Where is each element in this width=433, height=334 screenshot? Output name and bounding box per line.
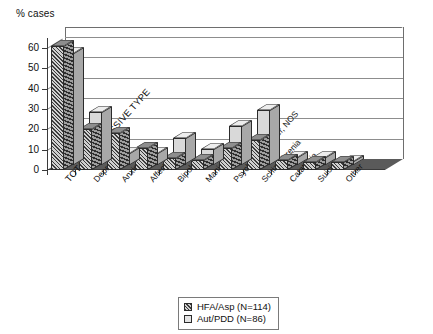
chart-figure: % cases 0102030405060 TOTAL DEPRESSIVE T… — [0, 0, 433, 334]
bar-face — [331, 162, 344, 170]
bar-side — [74, 47, 84, 165]
bar-face — [191, 160, 204, 170]
bar-side — [102, 106, 112, 165]
bar — [191, 160, 204, 170]
bar-face — [303, 162, 316, 170]
bar — [51, 46, 64, 170]
bar-side — [120, 127, 130, 170]
bar — [275, 160, 288, 170]
legend-item-aut-pdd: Aut/PDD (N=86) — [184, 313, 271, 325]
legend-swatch-icon-aut-pdd — [184, 315, 192, 323]
chart-legend: HFA/Asp (N=114) Aut/PDD (N=86) — [178, 297, 279, 330]
bar — [331, 162, 344, 170]
legend-item-hfa-asp: HFA/Asp (N=114) — [184, 301, 271, 313]
bar-side — [242, 120, 252, 165]
bar-face — [51, 46, 64, 170]
legend-label-hfa-asp: HFA/Asp (N=114) — [197, 301, 271, 313]
bar-side — [270, 104, 280, 165]
bar-face — [275, 160, 288, 170]
bar-side — [64, 40, 74, 170]
bar — [303, 162, 316, 170]
bar-side — [92, 123, 102, 170]
legend-swatch-icon-hfa-asp — [184, 303, 192, 311]
legend-label-aut-pdd: Aut/PDD (N=86) — [197, 313, 266, 325]
